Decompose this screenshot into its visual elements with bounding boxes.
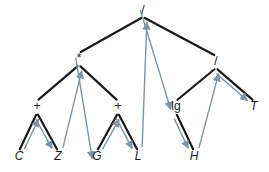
tree-edge-root-div2 xyxy=(145,18,214,55)
traversal-arrow-div2-to-T xyxy=(216,74,247,101)
node-plus1: + xyxy=(33,99,40,113)
tree-edge-plus1-Z xyxy=(38,115,57,149)
node-G: G xyxy=(92,149,101,163)
expression-tree-diagram: /*/++lgTCZGLH xyxy=(0,0,269,172)
tree-edge-plus2-G xyxy=(98,115,117,149)
tree-edges xyxy=(20,18,253,149)
node-mul: * xyxy=(77,51,82,65)
tree-edge-root-mul xyxy=(81,18,142,52)
traversal-arrow-H-to-div2 xyxy=(199,74,219,148)
tree-edge-div2-T xyxy=(218,69,253,99)
node-plus2: + xyxy=(114,99,121,113)
node-lg: lg xyxy=(171,99,180,113)
node-T: T xyxy=(250,99,259,113)
tree-edge-plus2-L xyxy=(119,115,137,149)
tree-edge-mul-plus1 xyxy=(39,66,78,99)
traversal-arrow-L-to-root xyxy=(142,22,147,147)
node-div2: / xyxy=(214,54,218,68)
tree-edge-lg-H xyxy=(177,115,193,149)
tree-edge-mul-plus2 xyxy=(80,66,116,99)
node-Z: Z xyxy=(53,149,62,163)
tree-edge-plus1-C xyxy=(20,115,36,149)
node-C: C xyxy=(15,149,24,163)
traversal-arrow-Z-to-mul xyxy=(63,71,82,148)
tree-edge-div2-lg xyxy=(178,69,215,99)
node-H: H xyxy=(190,149,199,163)
node-root: / xyxy=(141,3,145,17)
traversal-arrow-mul-to-G xyxy=(76,58,93,159)
node-L: L xyxy=(135,149,142,163)
